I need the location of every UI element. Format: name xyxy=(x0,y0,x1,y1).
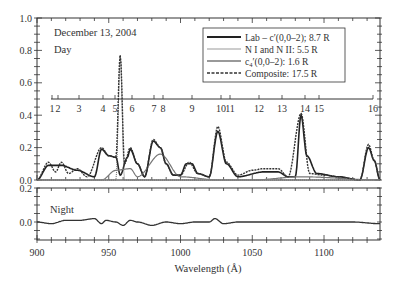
night-panel-frame xyxy=(37,188,380,240)
feature-tick-label: 7 xyxy=(152,103,157,114)
day-label: Day xyxy=(54,44,72,55)
feature-tick-label: 16 xyxy=(368,103,378,114)
feature-tick-label: 11 xyxy=(225,103,235,114)
spectrum-figure: 0.00.20.40.60.81.0 0.00.2 90095010001050… xyxy=(0,0,398,285)
legend: Lab – c′(0,0–2); 8.7 R N I and N II: 5.5… xyxy=(203,28,345,82)
day-ytick-label: 1.0 xyxy=(20,13,33,24)
night-ytick-label: 0.0 xyxy=(20,217,33,228)
x-tick-label: 900 xyxy=(30,247,45,258)
x-tick-label: 1050 xyxy=(242,247,262,258)
night-ytick-label: 0.2 xyxy=(20,183,33,194)
night-label: Night xyxy=(50,204,74,215)
legend-label-c4: c4′(0,0–2): 1.6 R xyxy=(245,56,309,69)
day-ytick-label: 0.8 xyxy=(20,45,33,56)
feature-tick-label: 1 xyxy=(50,103,55,114)
feature-tick-label: 9 xyxy=(190,103,195,114)
lab-curve xyxy=(37,115,380,180)
feature-number-axis: 12345678910111213141516 xyxy=(50,95,379,114)
feature-tick-label: 6 xyxy=(130,103,135,114)
feature-tick-label: 5 xyxy=(113,103,118,114)
day-ytick-label: 0.2 xyxy=(20,142,33,153)
date-annotation: December 13, 2004 xyxy=(54,27,137,38)
feature-tick-label: 12 xyxy=(254,103,264,114)
feature-tick-label: 2 xyxy=(56,103,61,114)
day-ytick-label: 0.4 xyxy=(20,110,33,121)
x-axis-label: Wavelength (Å) xyxy=(174,263,242,275)
night-spectrum-curve xyxy=(37,219,380,226)
night-curve xyxy=(37,219,380,226)
legend-label-nitrogen: N I and N II: 5.5 R xyxy=(245,44,318,55)
legend-label-lab: Lab – c′(0,0–2); 8.7 R xyxy=(245,32,330,44)
feature-tick-label: 13 xyxy=(277,103,287,114)
x-tick-label: 1000 xyxy=(171,247,191,258)
feature-tick-label: 15 xyxy=(314,103,324,114)
feature-tick-label: 14 xyxy=(300,103,310,114)
legend-label-composite: Composite: 17.5 R xyxy=(245,68,318,79)
feature-tick-label: 8 xyxy=(161,103,166,114)
feature-tick-label: 4 xyxy=(101,103,106,114)
day-ytick-label: 0.6 xyxy=(20,77,33,88)
x-tick-label: 1100 xyxy=(314,247,334,258)
feature-tick-label: 3 xyxy=(77,103,82,114)
x-tick-label: 950 xyxy=(101,247,116,258)
